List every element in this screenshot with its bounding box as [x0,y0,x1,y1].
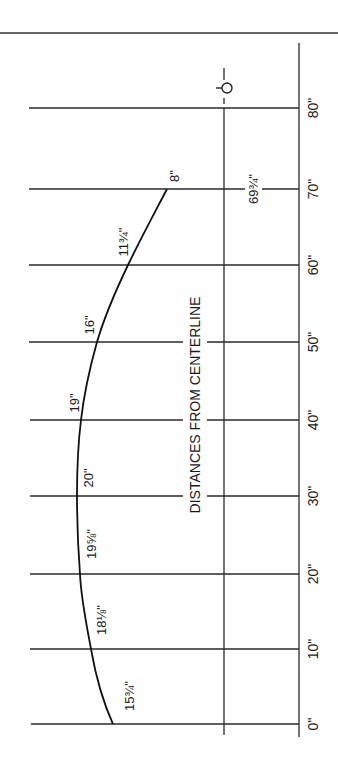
diagram-title: DISTANCES FROM CENTERLINE [187,297,203,514]
station-label-70: 70" [305,179,321,200]
profile-curve [77,189,167,724]
station-label-50: 50" [305,332,321,353]
station-label-10: 10" [305,639,321,660]
distance-labels: 15¾" 18⅛" 19⅝" 20" 19" 16" 11¾" 8" 69¾" [67,170,261,711]
distance-label-50: 16" [82,315,97,334]
centerline-distance-diagram: 0" 10" 20" 30" 40" 50" 60" 70" 80" 15¾" … [0,0,338,777]
distance-label-0: 15¾" [122,681,137,711]
station-label-30: 30" [305,486,321,507]
distance-label-60: 11¾" [116,227,131,256]
station-label-40: 40" [305,410,321,431]
station-labels: 0" 10" 20" 30" 40" 50" 60" 70" 80" [305,98,321,731]
distance-label-10: 18⅛" [94,605,109,635]
distance-label-20: 19⅝" [84,529,99,559]
distance-label-70: 8" [167,170,182,182]
distance-label-30: 20" [81,468,96,487]
station-label-80: 80" [305,98,321,119]
station-label-20: 20" [305,564,321,585]
end-distance-label: 69¾" [246,174,261,204]
distance-label-40: 19" [67,393,82,412]
centerline-symbol-icon [216,83,232,93]
station-label-60: 60" [305,255,321,276]
station-label-0: 0" [305,718,321,731]
